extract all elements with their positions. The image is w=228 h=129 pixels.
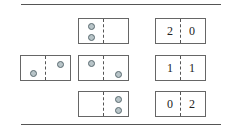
count-box-0-2: 0 2 xyxy=(155,91,206,117)
top-rule xyxy=(21,4,221,5)
right-count: 0 xyxy=(186,24,198,39)
left-count: 2 xyxy=(164,24,176,39)
dashed-divider xyxy=(103,92,104,116)
source-box xyxy=(20,55,71,81)
count-box-2-0: 2 0 xyxy=(155,18,206,44)
ball-icon xyxy=(115,96,122,103)
dashed-divider xyxy=(180,56,181,80)
right-count: 1 xyxy=(186,61,198,76)
config-box-both-right xyxy=(78,91,129,117)
left-count: 0 xyxy=(164,97,176,112)
dashed-divider xyxy=(45,56,46,80)
dashed-divider xyxy=(180,92,181,116)
ball-icon xyxy=(88,34,95,41)
right-count: 2 xyxy=(186,97,198,112)
ball-icon xyxy=(30,70,37,77)
config-box-split xyxy=(78,55,129,81)
count-box-1-1: 1 1 xyxy=(155,55,206,81)
ball-icon xyxy=(88,60,95,67)
config-box-both-left xyxy=(78,18,129,44)
bottom-rule xyxy=(21,124,221,125)
dashed-divider xyxy=(103,56,104,80)
left-count: 1 xyxy=(164,61,176,76)
ball-icon xyxy=(88,23,95,30)
dashed-divider xyxy=(103,19,104,43)
ball-icon xyxy=(57,61,64,68)
dashed-divider xyxy=(180,19,181,43)
ball-icon xyxy=(115,71,122,78)
ball-icon xyxy=(115,107,122,114)
